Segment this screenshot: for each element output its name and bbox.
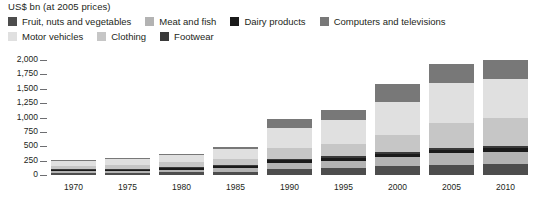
y-axis-tick-mark (40, 60, 47, 61)
bar-segment (429, 153, 474, 165)
bar-segment (483, 79, 528, 119)
bar-1970[interactable] (51, 160, 96, 175)
bar-segment (483, 60, 528, 79)
bar-1995[interactable] (321, 110, 366, 176)
y-axis-tick-label: 2,000 (0, 55, 38, 64)
chart-plot-area: 02505007501,0001,2501,5001,7502,000 1970… (0, 0, 541, 199)
bar-1985[interactable] (213, 147, 258, 175)
bar-segment (375, 135, 420, 152)
bar-segment (321, 161, 366, 168)
y-axis-tick-mark (40, 175, 47, 176)
y-axis-tick-label: 1,750 (0, 69, 38, 78)
x-axis-tick-label: 2010 (483, 183, 528, 192)
bar-segment (267, 128, 312, 149)
bar-segment (267, 148, 312, 159)
bar-segment (267, 119, 312, 127)
bar-segment (483, 152, 528, 164)
y-axis-tick-label: 750 (0, 127, 38, 136)
y-axis-tick-mark (40, 161, 47, 162)
y-axis-tick-label: 250 (0, 156, 38, 165)
bar-segment (375, 166, 420, 175)
bar-segment (321, 120, 366, 144)
y-axis-tick-mark (40, 74, 47, 75)
bar-segment (159, 155, 204, 162)
bar-segment (159, 172, 204, 175)
bar-segment (375, 157, 420, 166)
bar-2000[interactable] (375, 84, 420, 175)
y-axis-tick-mark (40, 132, 47, 133)
bar-segment (429, 165, 474, 175)
y-axis-tick-label: 1,500 (0, 84, 38, 93)
bar-segment (375, 102, 420, 134)
bar-segment (483, 118, 528, 146)
x-axis-tick-label: 1970 (51, 183, 96, 192)
bar-segment (321, 144, 366, 156)
y-axis-tick-mark (40, 89, 47, 90)
bar-segment (321, 110, 366, 120)
x-axis-tick-label: 1980 (159, 183, 204, 192)
bar-2005[interactable] (429, 64, 474, 175)
bar-1990[interactable] (267, 119, 312, 175)
bar-segment (321, 168, 366, 175)
bar-1975[interactable] (105, 158, 150, 175)
x-axis-tick-label: 1995 (321, 183, 366, 192)
y-axis-tick-mark (40, 146, 47, 147)
x-axis-tick-label: 1985 (213, 183, 258, 192)
bar-segment (429, 64, 474, 83)
y-axis-tick-mark (40, 118, 47, 119)
bar-segment (429, 83, 474, 123)
bar-segment (267, 169, 312, 175)
bar-group: 197019751980198519901995200020052010 (49, 0, 541, 199)
bar-segment (105, 173, 150, 175)
bar-segment (429, 123, 474, 147)
bar-2010[interactable] (483, 60, 528, 175)
x-axis-tick-label: 2000 (375, 183, 420, 192)
x-axis-tick-label: 1990 (267, 183, 312, 192)
y-axis-tick-label: 500 (0, 141, 38, 150)
bar-segment (213, 172, 258, 175)
bar-1980[interactable] (159, 154, 204, 175)
bar-segment (213, 149, 258, 158)
bar-segment (51, 173, 96, 175)
y-axis-tick-label: 1,000 (0, 113, 38, 122)
y-axis-tick-mark (40, 103, 47, 104)
bar-segment (483, 164, 528, 175)
x-axis-tick-label: 2005 (429, 183, 474, 192)
y-axis-tick-label: 0 (0, 170, 38, 179)
bar-segment (375, 84, 420, 102)
x-axis-tick-label: 1975 (105, 183, 150, 192)
y-axis-tick-label: 1,250 (0, 98, 38, 107)
